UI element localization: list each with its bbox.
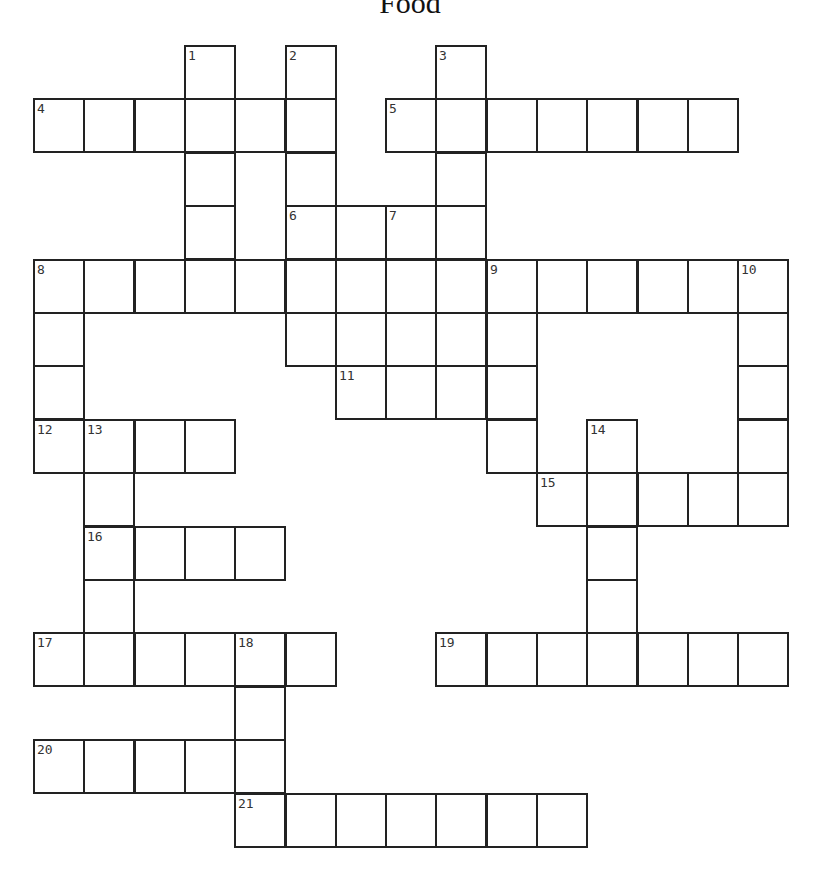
crossword-cell[interactable] (586, 98, 638, 153)
crossword-cell[interactable]: 10 (737, 259, 789, 314)
crossword-cell[interactable]: 2 (285, 45, 337, 100)
crossword-cell[interactable] (586, 632, 638, 687)
crossword-cell[interactable] (586, 472, 638, 527)
crossword-cell[interactable] (83, 632, 135, 687)
crossword-cell[interactable] (435, 205, 487, 260)
crossword-cell[interactable] (184, 526, 236, 581)
crossword-cell[interactable] (134, 632, 186, 687)
crossword-cell[interactable] (134, 259, 186, 314)
crossword-cell[interactable] (285, 152, 337, 207)
crossword-cell[interactable] (184, 152, 236, 207)
crossword-cell[interactable]: 3 (435, 45, 487, 100)
crossword-cell[interactable]: 20 (33, 739, 85, 794)
crossword-cell[interactable] (285, 793, 337, 848)
crossword-cell[interactable] (234, 686, 286, 741)
crossword-cell[interactable] (637, 472, 689, 527)
crossword-cell[interactable] (435, 259, 487, 314)
crossword-cell[interactable] (435, 152, 487, 207)
crossword-cell[interactable]: 6 (285, 205, 337, 260)
crossword-cell[interactable]: 21 (234, 793, 286, 848)
crossword-cell[interactable] (335, 259, 387, 314)
crossword-cell[interactable] (234, 259, 286, 314)
crossword-cell[interactable] (83, 739, 135, 794)
crossword-cell[interactable]: 17 (33, 632, 85, 687)
crossword-cell[interactable]: 7 (385, 205, 437, 260)
crossword-cell[interactable] (83, 259, 135, 314)
crossword-cell[interactable]: 5 (385, 98, 437, 153)
crossword-cell[interactable] (637, 632, 689, 687)
crossword-cell[interactable] (536, 793, 588, 848)
crossword-cell[interactable] (486, 98, 538, 153)
crossword-cell[interactable] (536, 259, 588, 314)
crossword-cell[interactable] (285, 312, 337, 367)
crossword-cell[interactable] (435, 365, 487, 420)
crossword-cell[interactable] (586, 259, 638, 314)
crossword-cell[interactable] (737, 472, 789, 527)
crossword-cell[interactable] (335, 793, 387, 848)
crossword-cell[interactable] (234, 98, 286, 153)
crossword-cell[interactable] (486, 419, 538, 474)
crossword-cell[interactable] (285, 259, 337, 314)
crossword-cell[interactable]: 15 (536, 472, 588, 527)
crossword-cell[interactable] (486, 365, 538, 420)
crossword-cell[interactable] (83, 472, 135, 527)
crossword-cell[interactable] (385, 259, 437, 314)
crossword-cell[interactable] (234, 526, 286, 581)
crossword-cell[interactable]: 4 (33, 98, 85, 153)
crossword-cell[interactable] (737, 419, 789, 474)
crossword-cell[interactable]: 12 (33, 419, 85, 474)
crossword-cell[interactable]: 8 (33, 259, 85, 314)
crossword-cell[interactable] (134, 526, 186, 581)
crossword-cell[interactable] (134, 419, 186, 474)
crossword-cell[interactable] (687, 98, 739, 153)
crossword-cell[interactable]: 13 (83, 419, 135, 474)
crossword-cell[interactable] (536, 632, 588, 687)
crossword-cell[interactable] (385, 365, 437, 420)
crossword-cell[interactable] (184, 739, 236, 794)
crossword-cell[interactable] (637, 259, 689, 314)
crossword-cell[interactable] (435, 98, 487, 153)
crossword-cell[interactable] (184, 98, 236, 153)
crossword-cell[interactable]: 11 (335, 365, 387, 420)
crossword-cell[interactable] (385, 312, 437, 367)
crossword-cell[interactable] (33, 312, 85, 367)
crossword-cell[interactable] (134, 739, 186, 794)
crossword-cell[interactable]: 16 (83, 526, 135, 581)
crossword-cell[interactable] (184, 419, 236, 474)
crossword-cell[interactable] (184, 205, 236, 260)
clue-number: 14 (590, 423, 606, 436)
crossword-cell[interactable] (687, 632, 739, 687)
crossword-cell[interactable] (184, 259, 236, 314)
crossword-cell[interactable] (134, 98, 186, 153)
crossword-cell[interactable] (737, 312, 789, 367)
crossword-cell[interactable] (536, 98, 588, 153)
crossword-cell[interactable] (737, 632, 789, 687)
crossword-cell[interactable]: 14 (586, 419, 638, 474)
crossword-cell[interactable] (385, 793, 437, 848)
crossword-cell[interactable] (435, 793, 487, 848)
crossword-cell[interactable] (184, 632, 236, 687)
crossword-cell[interactable] (234, 739, 286, 794)
crossword-cell[interactable]: 19 (435, 632, 487, 687)
crossword-cell[interactable] (335, 205, 387, 260)
crossword-cell[interactable] (637, 98, 689, 153)
crossword-cell[interactable]: 18 (234, 632, 286, 687)
clue-number: 4 (37, 102, 45, 115)
crossword-cell[interactable] (586, 579, 638, 634)
crossword-cell[interactable] (586, 526, 638, 581)
crossword-cell[interactable]: 1 (184, 45, 236, 100)
crossword-cell[interactable] (486, 632, 538, 687)
crossword-cell[interactable] (83, 98, 135, 153)
crossword-cell[interactable]: 9 (486, 259, 538, 314)
crossword-cell[interactable] (285, 98, 337, 153)
crossword-cell[interactable] (486, 312, 538, 367)
crossword-cell[interactable] (335, 312, 387, 367)
crossword-cell[interactable] (687, 472, 739, 527)
crossword-cell[interactable] (687, 259, 739, 314)
crossword-cell[interactable] (486, 793, 538, 848)
crossword-cell[interactable] (83, 579, 135, 634)
crossword-cell[interactable] (737, 365, 789, 420)
crossword-cell[interactable] (285, 632, 337, 687)
crossword-cell[interactable] (435, 312, 487, 367)
crossword-cell[interactable] (33, 365, 85, 420)
